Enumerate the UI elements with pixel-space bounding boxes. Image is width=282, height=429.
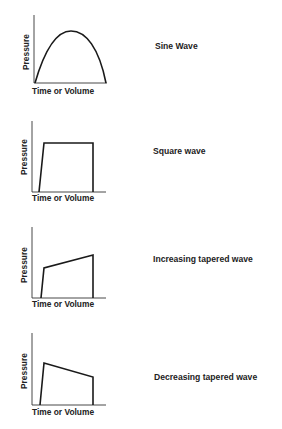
decreasing-tapered-wave-curve [40,363,93,405]
y-axis-label: Pressure [19,353,29,389]
wave-title: Decreasing tapered wave [154,372,257,382]
wave-title: Increasing tapered wave [153,254,253,264]
decreasing-tapered-wave-panel: Pressure Time or Volume Decreasing taper… [0,0,282,105]
wave-title: Square wave [153,146,206,156]
x-axis-label: Time or Volume [32,407,94,417]
